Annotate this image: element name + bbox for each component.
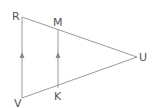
- label-V: V: [14, 97, 22, 108]
- point-labels: R M U V K: [12, 10, 147, 108]
- segment-VU: [22, 57, 137, 98]
- label-K: K: [54, 90, 62, 103]
- triangle-diagram: R M U V K: [0, 0, 156, 108]
- label-R: R: [12, 10, 20, 23]
- parallel-arrow-up-icon: [56, 52, 61, 58]
- segments: [22, 17, 137, 98]
- label-U: U: [139, 51, 147, 64]
- parallel-arrow-up-icon: [20, 52, 25, 58]
- label-M: M: [53, 16, 63, 29]
- segment-RU: [22, 17, 137, 57]
- parallel-markers: [20, 52, 61, 58]
